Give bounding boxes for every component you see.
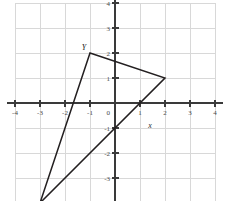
- triangle-outline: [40, 53, 165, 201]
- x-axis-label: x: [147, 121, 152, 130]
- y-tick-label: 3: [107, 25, 111, 33]
- y-tick-label: 4: [107, 0, 111, 8]
- coordinate-plane-svg: -4-3-2-112344321-1-2-3-40 Yx: [0, 0, 228, 201]
- x-tick-label: -4: [12, 109, 18, 117]
- x-tick-label: -3: [37, 109, 43, 117]
- vertex-label-Y: Y: [82, 43, 88, 52]
- x-tick-label: 4: [213, 109, 217, 117]
- coordinate-plane-figure: -4-3-2-112344321-1-2-3-40 Yx: [0, 0, 228, 201]
- y-tick-label: -2: [104, 150, 110, 158]
- y-tick-label: -3: [104, 175, 110, 183]
- x-tick-label: 2: [163, 109, 167, 117]
- y-tick-label: -4: [104, 200, 110, 201]
- origin-label: 0: [107, 109, 111, 117]
- y-tick-label: -1: [104, 125, 110, 133]
- y-tick-label: 2: [107, 50, 111, 58]
- triangle-shape: [40, 53, 165, 201]
- x-tick-label: 3: [188, 109, 192, 117]
- y-tick-label: 1: [107, 75, 111, 83]
- x-tick-label: -1: [87, 109, 93, 117]
- x-tick-label: 1: [138, 109, 142, 117]
- x-tick-label: -2: [62, 109, 68, 117]
